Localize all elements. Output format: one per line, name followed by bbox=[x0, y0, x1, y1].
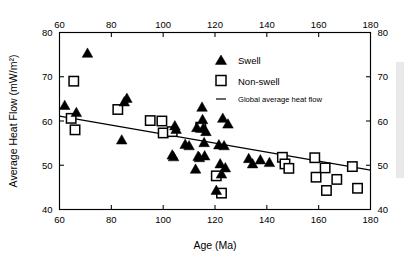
x-axis-top-tick-labels: 6080100120140160180 bbox=[54, 19, 378, 30]
x-tick-label-top: 60 bbox=[54, 19, 65, 30]
data-point-non-swell bbox=[157, 116, 166, 125]
swell-triangle-icon bbox=[215, 55, 226, 64]
y-axis-label: Average Heat Flow (mW/m²) bbox=[7, 55, 19, 188]
y-tick-label-left: 60 bbox=[42, 116, 53, 127]
data-point-non-swell bbox=[310, 153, 319, 162]
y-tick-label-right: 70 bbox=[378, 71, 389, 82]
scatter-plot: 6080100120140160180 6080100120140160180 … bbox=[0, 0, 410, 262]
x-tick-label-bottom: 120 bbox=[207, 214, 223, 225]
data-point-non-swell bbox=[69, 76, 78, 85]
x-tick-label-bottom: 60 bbox=[54, 214, 65, 225]
data-point-non-swell bbox=[158, 128, 167, 137]
x-tick-label-top: 180 bbox=[363, 19, 379, 30]
y-tick-label-left: 50 bbox=[42, 160, 53, 171]
data-point-non-swell bbox=[311, 172, 320, 181]
data-point-swell bbox=[264, 157, 275, 166]
plot-frame-rect bbox=[60, 33, 371, 210]
global-average-trend-line bbox=[60, 116, 371, 170]
x-tick-label-top: 120 bbox=[207, 19, 223, 30]
data-point-swell bbox=[59, 100, 70, 109]
x-axis-top-ticks bbox=[60, 33, 371, 38]
data-point-swell bbox=[122, 93, 133, 102]
data-point-swell bbox=[82, 48, 93, 57]
data-point-non-swell bbox=[348, 162, 357, 171]
x-axis-label: Age (Ma) bbox=[193, 239, 236, 251]
x-tick-label-top: 80 bbox=[106, 19, 117, 30]
y-tick-label-left: 40 bbox=[42, 204, 53, 215]
data-point-swell bbox=[255, 155, 266, 164]
y-axis-right-ticks bbox=[366, 33, 371, 210]
y-tick-label-left: 80 bbox=[42, 27, 53, 38]
legend-label-swell: Swell bbox=[238, 55, 261, 66]
x-tick-label-bottom: 180 bbox=[363, 214, 379, 225]
x-axis-bottom-ticks bbox=[60, 205, 371, 210]
non-swell-square-icon bbox=[216, 76, 226, 86]
data-point-swell bbox=[116, 135, 127, 144]
x-tick-label-top: 100 bbox=[155, 19, 171, 30]
legend-label-global-average: Global average heat flow bbox=[238, 95, 323, 104]
x-tick-label-top: 140 bbox=[259, 19, 275, 30]
y-axis-left-tick-labels: 4050607080 bbox=[42, 27, 53, 215]
data-point-swell bbox=[197, 102, 208, 111]
y-axis-right-tick-labels: 4050607080 bbox=[378, 27, 389, 215]
data-point-non-swell bbox=[322, 186, 331, 195]
data-point-non-swell bbox=[70, 125, 79, 134]
y-tick-label-right: 80 bbox=[378, 27, 389, 38]
x-axis-bottom-tick-labels: 6080100120140160180 bbox=[54, 214, 378, 225]
x-tick-label-bottom: 100 bbox=[155, 214, 171, 225]
data-point-non-swell bbox=[332, 175, 341, 184]
data-point-non-swell bbox=[320, 163, 329, 172]
data-point-swell bbox=[190, 164, 201, 173]
x-tick-label-top: 160 bbox=[311, 19, 327, 30]
trend-line-path bbox=[60, 116, 371, 170]
data-point-non-swell bbox=[146, 116, 155, 125]
y-tick-label-right: 50 bbox=[378, 160, 389, 171]
legend-item-global-average: Global average heat flow bbox=[216, 95, 323, 104]
plot-frame bbox=[60, 33, 371, 210]
y-tick-label-right: 40 bbox=[378, 204, 389, 215]
data-point-non-swell bbox=[284, 164, 293, 173]
y-axis-left-ticks bbox=[60, 33, 65, 210]
legend-item-non-swell: Non-swell bbox=[216, 76, 280, 88]
data-point-non-swell bbox=[353, 184, 362, 193]
x-tick-label-bottom: 80 bbox=[106, 214, 117, 225]
data-point-swell bbox=[197, 114, 208, 123]
x-tick-label-bottom: 140 bbox=[259, 214, 275, 225]
data-point-swell bbox=[71, 107, 82, 116]
legend-item-swell: Swell bbox=[215, 55, 260, 66]
legend: Swell Non-swell Global average heat flow bbox=[215, 55, 322, 104]
x-tick-label-bottom: 160 bbox=[311, 214, 327, 225]
legend-label-non-swell: Non-swell bbox=[238, 76, 280, 87]
figure-container: 6080100120140160180 6080100120140160180 … bbox=[0, 0, 410, 262]
y-tick-label-right: 60 bbox=[378, 116, 389, 127]
y-tick-label-left: 70 bbox=[42, 71, 53, 82]
